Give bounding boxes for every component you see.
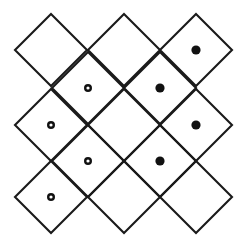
diamond-cell xyxy=(15,161,87,233)
hollow-circle-marker-icon xyxy=(48,194,54,200)
diamond-cell xyxy=(15,14,87,86)
filled-dot-marker-icon xyxy=(155,83,164,92)
diamond-cell xyxy=(15,89,87,161)
filled-dot-marker-icon xyxy=(155,156,164,165)
diamond-cell xyxy=(160,161,232,233)
diamond-cell xyxy=(88,161,160,233)
diamond-cell xyxy=(52,52,124,124)
hollow-circle-marker-icon xyxy=(85,85,91,91)
diamond-cell xyxy=(88,14,160,86)
diamond-cell xyxy=(88,89,160,161)
lattice-svg-canvas xyxy=(0,0,242,252)
hollow-circle-marker-icon xyxy=(48,122,54,128)
hollow-circle-marker-icon xyxy=(85,158,91,164)
diamond-cell xyxy=(52,125,124,197)
filled-dot-marker-icon xyxy=(191,120,200,129)
filled-dot-marker-icon xyxy=(191,45,200,54)
diamond-lattice-figure xyxy=(0,0,242,252)
